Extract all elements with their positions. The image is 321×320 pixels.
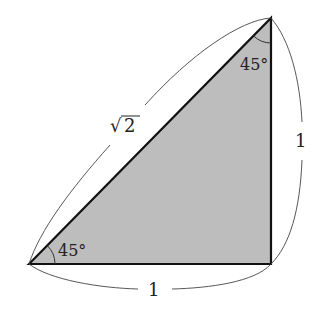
bottom-measure-curve bbox=[172, 264, 271, 289]
angle-top-label: 45° bbox=[240, 55, 268, 74]
vertical-measure-curve bbox=[271, 18, 302, 122]
triangle-diagram: √ 2 1 1 45° 45° bbox=[0, 0, 321, 320]
vertical-measure-curve bbox=[271, 160, 302, 264]
vertical-side-label: 1 bbox=[295, 130, 306, 151]
hypotenuse-label: √ 2 bbox=[110, 115, 140, 136]
radicand: 2 bbox=[124, 115, 135, 136]
triangle bbox=[29, 18, 271, 264]
radical-sign: √ bbox=[110, 115, 122, 136]
angle-bottom-left-label: 45° bbox=[58, 241, 86, 260]
bottom-side-label: 1 bbox=[148, 279, 159, 300]
bottom-measure-curve bbox=[29, 264, 138, 289]
